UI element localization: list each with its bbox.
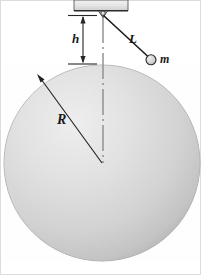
ceiling-support-block <box>74 0 128 11</box>
physics-figure-pendulum-over-sphere: h L m R <box>0 0 201 275</box>
ceiling-block-body <box>74 0 128 11</box>
pivot-pin <box>101 11 105 15</box>
label-string-length-L: L <box>129 32 137 45</box>
label-sphere-radius-R: R <box>57 113 66 127</box>
label-bob-mass-m: m <box>160 53 169 65</box>
figure-canvas <box>0 0 201 275</box>
pendulum-bob <box>146 55 156 65</box>
label-height-h: h <box>72 32 79 45</box>
